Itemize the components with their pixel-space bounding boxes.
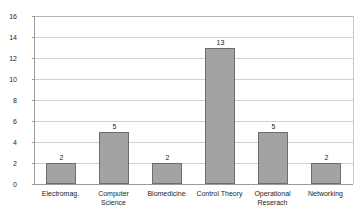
ytick-label-4: 4 bbox=[0, 139, 17, 146]
bar-slot-operational-research: 5 bbox=[247, 16, 300, 184]
bar-computer-science[interactable] bbox=[99, 132, 129, 184]
category-label-operational-research-line2: Reserach bbox=[246, 198, 299, 207]
bar-value-biomedicine: 2 bbox=[141, 154, 194, 161]
ytick-label-0: 0 bbox=[0, 181, 17, 188]
bar-chart: 16 14 12 10 8 6 4 2 0 2 bbox=[0, 0, 364, 224]
ytick-label-6: 6 bbox=[0, 118, 17, 125]
ytick-label-10: 10 bbox=[0, 76, 17, 83]
category-label-operational-research: Operational Reserach bbox=[246, 189, 299, 207]
bar-slot-electromag: 2 bbox=[35, 16, 88, 184]
bar-operational-research[interactable] bbox=[258, 132, 288, 184]
bar-electromag[interactable] bbox=[46, 163, 76, 184]
bar-slot-networking: 2 bbox=[300, 16, 353, 184]
category-label-computer-science-line1: Computer bbox=[87, 189, 140, 198]
ytick-label-12: 12 bbox=[0, 55, 17, 62]
bar-control-theory[interactable] bbox=[205, 48, 235, 184]
ytick-label-8: 8 bbox=[0, 97, 17, 104]
category-label-electromag-line1: Electromag. bbox=[34, 189, 87, 198]
plot-right-edge bbox=[353, 16, 354, 184]
bar-biomedicine[interactable] bbox=[152, 163, 182, 184]
bar-value-operational-research: 5 bbox=[247, 123, 300, 130]
category-label-networking-line1: Networking bbox=[299, 189, 352, 198]
plot-area: 16 14 12 10 8 6 4 2 0 2 bbox=[34, 16, 353, 185]
bar-networking[interactable] bbox=[311, 163, 341, 184]
category-label-computer-science-line2: Science bbox=[87, 198, 140, 207]
category-label-control-theory-line1: Control Theory bbox=[193, 189, 246, 198]
category-label-computer-science: Computer Science bbox=[87, 189, 140, 207]
ytick-label-2: 2 bbox=[0, 160, 17, 167]
bar-value-computer-science: 5 bbox=[88, 123, 141, 130]
ytick-label-16: 16 bbox=[0, 13, 17, 20]
ytick-mark-0 bbox=[32, 184, 35, 185]
category-label-biomedicine-line1: Biomedicine bbox=[140, 189, 193, 198]
category-label-biomedicine: Biomedicine bbox=[140, 189, 193, 198]
category-axis-labels: Electromag. Computer Science Biomedicine… bbox=[34, 189, 352, 221]
category-label-networking: Networking bbox=[299, 189, 352, 198]
bar-value-networking: 2 bbox=[300, 154, 353, 161]
bar-value-control-theory: 13 bbox=[194, 39, 247, 46]
category-label-operational-research-line1: Operational bbox=[246, 189, 299, 198]
bars-layer: 2 5 2 13 5 2 bbox=[35, 16, 353, 184]
ytick-label-14: 14 bbox=[0, 34, 17, 41]
bar-slot-computer-science: 5 bbox=[88, 16, 141, 184]
category-label-control-theory: Control Theory bbox=[193, 189, 246, 198]
bar-value-electromag: 2 bbox=[35, 154, 88, 161]
category-label-electromag: Electromag. bbox=[34, 189, 87, 198]
bar-slot-control-theory: 13 bbox=[194, 16, 247, 184]
bar-slot-biomedicine: 2 bbox=[141, 16, 194, 184]
